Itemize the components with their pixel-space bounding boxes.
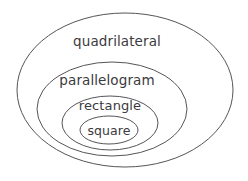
venn-diagram-shapes [0,0,248,181]
label-square: square [87,123,130,138]
label-quadrilateral: quadrilateral [73,33,161,49]
label-parallelogram: parallelogram [59,72,154,88]
venn-diagram-canvas: quadrilateral parallelogram rectangle sq… [0,0,248,181]
label-rectangle: rectangle [79,98,141,113]
